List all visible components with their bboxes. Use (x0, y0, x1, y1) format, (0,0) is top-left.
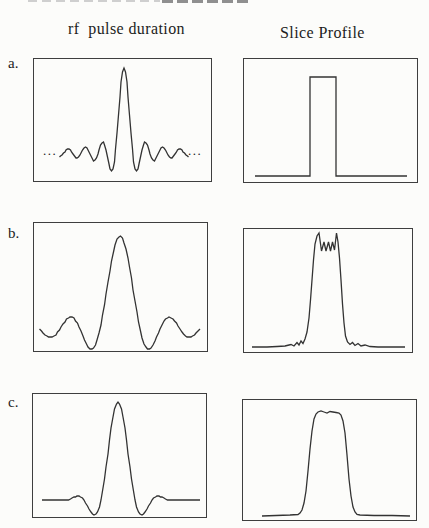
ellipsis-left: ... (43, 143, 57, 159)
column-header-rf-pulse-duration: rf pulse duration (68, 20, 185, 38)
row-label-b: b. (8, 225, 19, 242)
row-label-a: a. (8, 55, 18, 72)
waveform-c-apodized-sinc (32, 393, 207, 518)
column-header-slice-profile: Slice Profile (280, 24, 365, 42)
panel-a-rf-pulse: ... ... (33, 58, 212, 182)
panel-b-slice-profile (243, 228, 413, 353)
waveform-path (252, 233, 405, 347)
panel-a-slice-profile (243, 58, 418, 183)
waveform-path (255, 77, 407, 176)
waveform-path (42, 402, 200, 515)
panel-c-rf-pulse (32, 393, 207, 518)
waveform-b-ringing-profile (243, 228, 413, 353)
waveform-path (262, 411, 410, 516)
row-label-c: c. (8, 394, 18, 411)
waveform-a-rect-profile (243, 58, 418, 183)
figure-page: rf pulse duration Slice Profile a. b. c.… (0, 0, 429, 528)
waveform-path (40, 236, 201, 349)
panel-b-rf-pulse (33, 222, 208, 352)
waveform-path (60, 68, 189, 171)
cropped-text-top-dark (162, 0, 252, 3)
waveform-a-sinc-many-lobes (33, 58, 212, 182)
panel-c-slice-profile (242, 399, 417, 521)
cropped-text-top (28, 0, 160, 2)
ellipsis-right: ... (188, 143, 202, 159)
waveform-b-truncated-sinc (33, 222, 208, 352)
waveform-c-smooth-profile (242, 399, 417, 521)
